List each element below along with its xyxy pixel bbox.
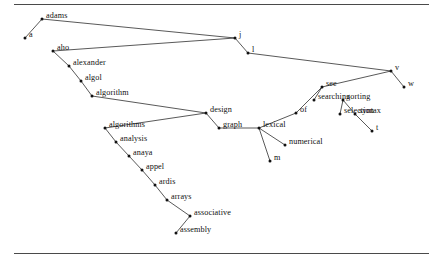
tree-node-label: l [252, 46, 254, 54]
tree-node-label: of [300, 106, 307, 114]
edge-layer [25, 19, 404, 233]
tree-edge [248, 53, 391, 71]
tree-node-marker[interactable] [339, 113, 342, 116]
tree-node-label: numerical [289, 138, 323, 146]
tree-edge [167, 200, 190, 216]
tree-edge [116, 142, 129, 156]
tree-edge [129, 156, 142, 170]
tree-node-label: assembly [180, 226, 211, 234]
tree-node-label: ardis [159, 178, 175, 186]
tree-edge [81, 81, 92, 96]
tree-edge [259, 128, 285, 145]
tree-node-label: lexical [263, 121, 286, 129]
tree-edge [206, 113, 219, 128]
tree-node-label: t [376, 124, 378, 132]
tree-edge [142, 170, 155, 185]
tree-edge [105, 128, 116, 142]
tree-node-marker[interactable] [52, 50, 55, 53]
tree-node-marker[interactable] [321, 86, 324, 89]
tree-node-marker[interactable] [371, 130, 374, 133]
tree-node-label: analysis [120, 135, 147, 143]
tree-node-marker[interactable] [247, 52, 250, 55]
tree-node-label: arrays [171, 193, 192, 201]
tree-graph [0, 0, 443, 267]
tree-edge [340, 100, 343, 114]
tree-node-label: v [395, 64, 399, 72]
tree-node-label: searching [318, 93, 350, 101]
tree-node-marker[interactable] [141, 169, 144, 172]
tree-node-label: design [210, 106, 232, 114]
tree-node-marker[interactable] [154, 184, 157, 187]
tree-node-marker[interactable] [205, 112, 208, 115]
tree-edge [355, 114, 372, 131]
node-marker-layer [24, 18, 406, 235]
tree-node-marker[interactable] [166, 199, 169, 202]
tree-node-label: adams [46, 12, 67, 20]
tree-node-marker[interactable] [68, 65, 71, 68]
tree-node-marker[interactable] [313, 99, 316, 102]
tree-node-label: graph [223, 121, 242, 129]
tree-node-label: alexander [73, 59, 106, 67]
tree-edge [69, 66, 81, 81]
tree-edge [259, 128, 270, 161]
tree-edge [25, 19, 42, 38]
tree-node-marker[interactable] [234, 37, 237, 40]
tree-node-marker[interactable] [41, 18, 44, 21]
tree-node-label: algol [85, 74, 102, 82]
tree-node-marker[interactable] [218, 127, 221, 130]
tree-edge [235, 38, 248, 53]
tree-edge [53, 38, 235, 51]
tree-node-marker[interactable] [295, 112, 298, 115]
tree-node-marker[interactable] [269, 160, 272, 163]
tree-node-label: j [239, 31, 241, 39]
tree-node-label: associative [194, 209, 231, 217]
tree-edge [92, 96, 206, 113]
tree-node-marker[interactable] [403, 86, 406, 89]
tree-node-label: appel [146, 163, 164, 171]
tree-node-label: w [408, 80, 414, 88]
tree-node-label: algorithms [109, 121, 145, 129]
tree-node-label: sorting [347, 93, 370, 101]
tree-node-label: anaya [133, 149, 153, 157]
tree-node-marker[interactable] [80, 80, 83, 83]
tree-edge [53, 51, 69, 66]
tree-node-marker[interactable] [189, 215, 192, 218]
figure-canvas: adamsaahoalexanderalgolalgorithmalgorith… [0, 0, 443, 267]
tree-node-label: aho [57, 44, 69, 52]
tree-node-label: a [29, 31, 33, 39]
tree-node-marker[interactable] [390, 70, 393, 73]
tree-node-marker[interactable] [24, 37, 27, 40]
tree-node-label: see [326, 80, 337, 88]
tree-node-marker[interactable] [284, 144, 287, 147]
tree-node-marker[interactable] [115, 141, 118, 144]
tree-node-label: m [274, 154, 280, 162]
tree-node-label: syntax [359, 107, 381, 115]
tree-edge [42, 19, 235, 38]
tree-node-marker[interactable] [91, 95, 94, 98]
tree-node-marker[interactable] [104, 127, 107, 130]
tree-edge [391, 71, 404, 87]
tree-node-label: algorithm [96, 89, 129, 97]
tree-node-marker[interactable] [258, 127, 261, 130]
tree-node-marker[interactable] [128, 155, 131, 158]
tree-node-marker[interactable] [175, 232, 178, 235]
tree-edge [155, 185, 167, 200]
